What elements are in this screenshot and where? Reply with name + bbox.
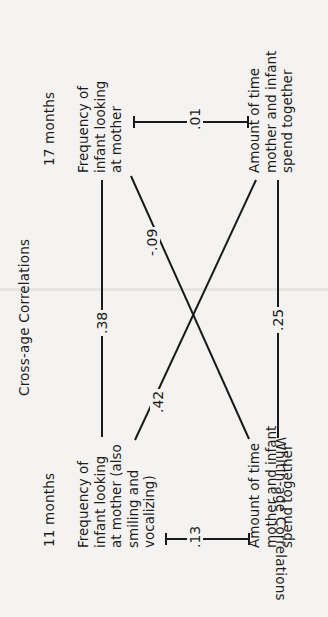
node-line: at mother bbox=[108, 81, 125, 173]
node-time-11mo: Amount of time mother and infant spend t… bbox=[246, 426, 296, 548]
node-line: Frequency of bbox=[75, 81, 92, 173]
corr-time-cross-age: .25 bbox=[270, 307, 286, 333]
node-line: at mother (also bbox=[108, 444, 125, 548]
node-line: mother and infant bbox=[263, 51, 280, 173]
age-label-11: 11 months bbox=[41, 473, 58, 547]
node-line: smiling and bbox=[125, 444, 142, 548]
edge-time11-looking17 bbox=[131, 176, 249, 439]
age-label-17: 17 months bbox=[41, 92, 58, 166]
corr-within-11: .13 bbox=[187, 524, 203, 550]
corr-time11-looking17: -.09 bbox=[144, 227, 160, 258]
node-line: spend together bbox=[279, 426, 296, 548]
node-looking-11mo: Frequency of infant looking at mother (a… bbox=[75, 444, 158, 548]
node-line: mother and infant bbox=[263, 426, 280, 548]
node-line: spend together bbox=[279, 51, 296, 173]
corr-within-17: .01 bbox=[187, 106, 203, 132]
node-line: infant looking bbox=[92, 81, 109, 173]
node-line: Amount of time bbox=[246, 426, 263, 548]
cross-age-title: Cross-age Correlations bbox=[16, 239, 33, 396]
node-time-17mo: Amount of time mother and infant spend t… bbox=[246, 51, 296, 173]
node-looking-17mo: Frequency of infant looking at mother bbox=[75, 81, 125, 173]
corr-looking-cross-age: .38 bbox=[94, 310, 110, 336]
node-line: Amount of time bbox=[246, 51, 263, 173]
node-line: infant looking bbox=[92, 444, 109, 548]
corr-looking11-time17: .42 bbox=[150, 389, 166, 415]
node-line: vocalizing) bbox=[141, 444, 158, 548]
node-line: Frequency of bbox=[75, 444, 92, 548]
